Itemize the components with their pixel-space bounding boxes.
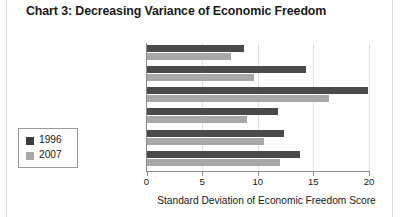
gridline [369, 43, 370, 171]
bar-2007 [147, 116, 247, 123]
axis-tick-label: 0 [144, 176, 149, 187]
chart-page: Chart 3: Decreasing Variance of Economic… [0, 0, 403, 217]
bar-group: Americas [147, 128, 370, 149]
legend-swatch-icon [26, 137, 34, 145]
bar-1996 [147, 151, 301, 158]
bar-group: Europe [147, 107, 370, 128]
bar-1996 [147, 45, 245, 52]
bar-group: Middle East/North Africa [147, 64, 370, 85]
bar-2007 [147, 138, 265, 145]
bar-2007 [147, 159, 281, 166]
page-border-left [6, 0, 7, 217]
plot-area: 05101520 Sub-Saharan AfricaMiddle East/N… [147, 43, 370, 171]
bar-1996 [147, 130, 285, 137]
legend-item: 2007 [26, 148, 77, 163]
bar-group: Sub-Saharan Africa [147, 43, 370, 64]
bar-1996 [147, 87, 368, 94]
page-border-right [392, 0, 393, 217]
axis-tick-label: 20 [364, 176, 375, 187]
axis-tick-label: 15 [308, 176, 319, 187]
bar-group: Asia [147, 86, 370, 107]
page-title: Chart 3: Decreasing Variance of Economic… [26, 4, 376, 18]
axis-tick-label: 10 [252, 176, 263, 187]
legend-item-label: 1996 [39, 135, 62, 145]
axis-tick-label: 5 [199, 176, 204, 187]
bar-group: World [147, 150, 370, 171]
bar-2007 [147, 95, 329, 102]
legend: 1996 2007 [18, 128, 78, 168]
bar-1996 [147, 108, 278, 115]
bar-2007 [147, 74, 255, 81]
x-axis-title: Standard Deviation of Economic Freedom S… [147, 195, 387, 206]
bar-2007 [147, 53, 232, 60]
bar-1996 [147, 66, 306, 73]
legend-item-label: 2007 [39, 150, 62, 160]
legend-item: 1996 [26, 133, 77, 148]
legend-swatch-icon [26, 152, 34, 160]
